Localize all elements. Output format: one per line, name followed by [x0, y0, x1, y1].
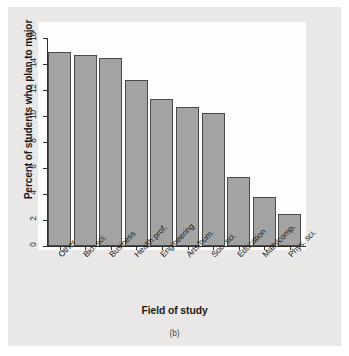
bar — [48, 52, 71, 246]
bar — [99, 58, 122, 247]
bar-series — [48, 38, 306, 246]
bar — [74, 55, 97, 246]
y-tick-label: 16 — [29, 28, 38, 46]
y-tick-mark — [43, 142, 47, 143]
figure-page: Percent of students who plan to major 02… — [0, 0, 349, 356]
y-tick-label: 0 — [29, 236, 38, 254]
y-tick-label: 2 — [29, 210, 38, 228]
y-tick-label: 10 — [29, 106, 38, 124]
y-tick-mark — [43, 194, 47, 195]
y-tick-label: 6 — [29, 158, 38, 176]
bar — [125, 80, 148, 246]
y-tick-mark — [43, 90, 47, 91]
y-tick-mark — [43, 116, 47, 117]
y-tick-mark — [43, 64, 47, 65]
y-tick-mark — [43, 246, 47, 247]
y-tick-label: 12 — [29, 80, 38, 98]
x-axis-title: Field of study — [0, 305, 349, 316]
figure-caption: (b) — [0, 328, 349, 338]
y-tick-mark — [43, 38, 47, 39]
y-tick-label: 8 — [29, 132, 38, 150]
bar — [202, 113, 225, 246]
y-tick-label: 14 — [29, 54, 38, 72]
y-tick-mark — [43, 168, 47, 169]
y-tick-mark — [43, 220, 47, 221]
y-tick-label: 4 — [29, 184, 38, 202]
